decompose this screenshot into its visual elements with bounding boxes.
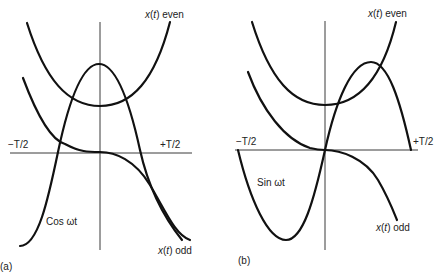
panel-a-minus-half-period-label: −T/2 (8, 139, 29, 150)
panel-b-odd-curve (248, 72, 397, 220)
panel-b-caption: (b) (238, 255, 250, 266)
panel-b: x(t) even −T/2 +T/2 Sin ωt x(t) odd (b) (235, 8, 434, 266)
figure-canvas: x(t) even −T/2 +T/2 Cos ωt x(t) odd (a) … (0, 0, 447, 279)
panel-a-even-label: x(t) even (144, 9, 184, 20)
panel-a-plus-half-period-label: +T/2 (160, 139, 181, 150)
panel-a-cos-curve (20, 64, 182, 246)
panel-b-sin-label: Sin ωt (257, 177, 285, 188)
panel-a-cos-label: Cos ωt (46, 216, 77, 227)
panel-a-odd-label: x(t) odd (157, 245, 192, 256)
panel-b-plus-half-period-label: +T/2 (413, 136, 434, 147)
panel-b-minus-half-period-label: −T/2 (236, 136, 257, 147)
panel-a: x(t) even −T/2 +T/2 Cos ωt x(t) odd (a) (0, 9, 192, 272)
panel-b-even-label: x(t) even (367, 8, 407, 19)
panel-b-odd-label: x(t) odd (375, 222, 410, 233)
panel-a-caption: (a) (0, 261, 12, 272)
even-odd-function-figure: x(t) even −T/2 +T/2 Cos ωt x(t) odd (a) … (0, 0, 447, 279)
